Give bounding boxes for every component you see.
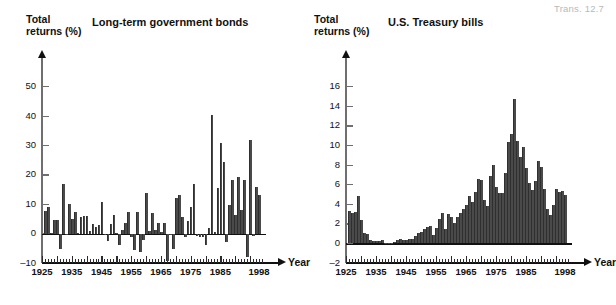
- x-axis-tick: [194, 259, 195, 263]
- x-axis-arrow-icon: [278, 258, 286, 266]
- zero-line: [42, 234, 266, 235]
- x-axis-tick: [214, 259, 215, 263]
- x-axis-tick: [256, 259, 257, 263]
- bar: [246, 234, 249, 257]
- x-axis-tick: [391, 256, 392, 263]
- x-axis-tick: [451, 256, 452, 263]
- x-axis-tick: [463, 259, 464, 263]
- x-axis-tick: [505, 259, 506, 263]
- panel-us-treasury-bills: Total returns (%) U.S. Treasury bills Ye…: [306, 0, 612, 305]
- x-axis-tick: [424, 259, 425, 263]
- x-axis-tick: [550, 259, 551, 263]
- x-axis-tick: [565, 259, 566, 263]
- x-axis-tick: [104, 259, 105, 263]
- bar: [258, 195, 261, 233]
- x-axis-tick: [517, 259, 518, 263]
- x-axis-tick: [179, 259, 180, 263]
- y-axis-tick-label: 10: [10, 199, 36, 209]
- x-axis-tick: [101, 256, 102, 263]
- x-axis-tick: [448, 259, 449, 263]
- x-axis-tick: [84, 259, 85, 263]
- x-axis-tick: [367, 259, 368, 263]
- x-axis-tick: [433, 259, 434, 263]
- x-axis-tick: [131, 256, 132, 263]
- x-axis-tick-label: 1935: [359, 267, 393, 277]
- y-axis-tick-label: 6: [314, 179, 340, 189]
- y-axis-tick: [347, 204, 353, 205]
- x-axis-tick: [349, 259, 350, 263]
- x-axis-tick: [176, 256, 177, 263]
- x-axis-tick: [81, 259, 82, 263]
- x-axis-tick: [113, 259, 114, 263]
- x-axis-tick: [223, 259, 224, 263]
- x-axis-tick: [90, 259, 91, 263]
- bar: [243, 180, 246, 233]
- x-axis-tick: [541, 256, 542, 263]
- x-axis-tick-label: 1985: [203, 267, 237, 277]
- x-axis-tick: [394, 259, 395, 263]
- y-axis-tick-label: 10: [314, 140, 340, 150]
- y-axis-tick-label: 40: [10, 111, 36, 121]
- x-axis-tick: [385, 259, 386, 263]
- x-axis-tick: [457, 259, 458, 263]
- x-axis-tick: [553, 259, 554, 263]
- x-axis-tick: [72, 256, 73, 263]
- x-axis-tick: [63, 259, 64, 263]
- x-axis-tick: [568, 259, 569, 263]
- y-axis-tick-label: 2: [314, 218, 340, 228]
- x-axis-tick: [499, 259, 500, 263]
- x-axis-tick: [217, 259, 218, 263]
- bar: [127, 212, 130, 233]
- bar: [59, 234, 62, 250]
- y-axis-tick: [347, 86, 353, 87]
- x-axis-tick: [421, 256, 422, 263]
- x-axis-tick: [523, 259, 524, 263]
- bar: [47, 207, 50, 233]
- bar: [62, 184, 65, 233]
- plot-area-left: Year–10010203040501925193519451955196519…: [0, 0, 306, 305]
- footer-caption: [150, 297, 610, 305]
- x-axis-tick: [98, 259, 99, 263]
- x-axis-tick: [415, 259, 416, 263]
- x-axis-tick: [262, 259, 263, 263]
- x-axis-tick: [472, 259, 473, 263]
- x-axis-tick-label: 1975: [479, 267, 513, 277]
- x-axis-tick: [253, 259, 254, 263]
- bar: [166, 234, 169, 261]
- x-axis-tick: [173, 259, 174, 263]
- x-axis-tick: [137, 259, 138, 263]
- x-axis-tick-label: 1965: [449, 267, 483, 277]
- x-axis-tick: [535, 259, 536, 263]
- x-axis-tick: [544, 259, 545, 263]
- bar: [113, 215, 116, 234]
- bar: [193, 184, 196, 233]
- y-axis-line: [345, 58, 347, 263]
- x-axis-tick: [439, 259, 440, 263]
- x-axis-tick: [409, 259, 410, 263]
- x-axis-tick: [379, 259, 380, 263]
- y-axis-tick-label: 4: [314, 199, 340, 209]
- x-axis-tick: [75, 259, 76, 263]
- x-axis-tick: [238, 259, 239, 263]
- x-axis-tick: [481, 256, 482, 263]
- x-axis-tick: [520, 259, 521, 263]
- x-axis-tick: [490, 259, 491, 263]
- x-axis-tick: [469, 259, 470, 263]
- y-axis-tick-label: 14: [314, 101, 340, 111]
- x-axis-tick: [382, 259, 383, 263]
- x-axis-tick: [538, 259, 539, 263]
- x-axis-tick: [134, 259, 135, 263]
- x-axis-tick: [96, 259, 97, 263]
- x-axis-tick: [125, 259, 126, 263]
- x-axis-tick: [418, 259, 419, 263]
- bar: [223, 162, 226, 234]
- bar: [564, 195, 567, 243]
- y-axis-tick: [43, 116, 49, 117]
- x-axis-tick: [161, 256, 162, 263]
- x-axis-tick: [496, 256, 497, 263]
- x-axis-tick: [364, 259, 365, 263]
- x-axis-tick: [146, 256, 147, 263]
- x-axis-tick: [526, 256, 527, 263]
- x-axis-tick: [48, 259, 49, 263]
- x-axis-tick-label: 1998: [242, 267, 276, 277]
